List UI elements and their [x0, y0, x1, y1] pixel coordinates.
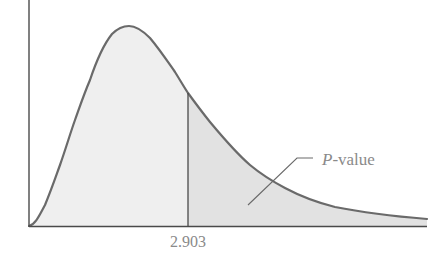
- p-value-label-italic: P: [321, 150, 332, 169]
- critical-value-label: 2.903: [170, 233, 206, 250]
- p-value-label: P-value: [321, 150, 375, 169]
- p-value-label-rest: -value: [332, 150, 374, 169]
- p-value-density-chart: P-value 2.903: [0, 0, 446, 268]
